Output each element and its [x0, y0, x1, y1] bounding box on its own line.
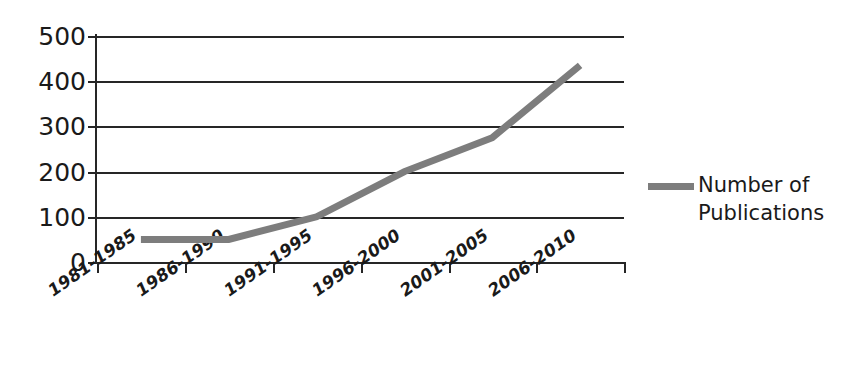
legend-label-line-2: Publications	[698, 200, 824, 228]
line-chart-figure: 500 400 300 200 100 0 1981-1985 1986-199…	[0, 0, 866, 383]
legend-swatch-icon	[648, 183, 694, 190]
series-line-number-of-publications	[141, 65, 580, 239]
legend-label-line-1: Number of	[698, 172, 824, 200]
legend: Number of Publications	[648, 172, 858, 227]
legend-label: Number of Publications	[698, 172, 824, 227]
